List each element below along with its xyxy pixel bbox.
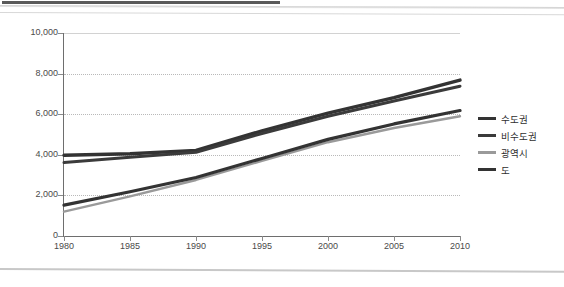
legend-item-label: 광역시 [501,146,528,160]
legend-item-비수도권[interactable]: 비수도권 [478,127,560,144]
legend-item-수도권[interactable]: 수도권 [478,110,560,127]
chart-legend: 수도권비수도권광역시도 [478,110,560,178]
series-line-비수도권 [64,86,460,162]
legend-swatch-icon [478,134,496,137]
scanned-page: 02,0004,0006,0008,00010,000 198019851990… [0,0,564,287]
page-bottom-rule [0,268,564,273]
legend-item-도[interactable]: 도 [478,161,560,178]
legend-item-label: 도 [501,163,510,177]
series-line-수도권 [64,80,460,155]
legend-swatch-icon [478,168,496,171]
legend-item-label: 비수도권 [501,129,537,143]
legend-item-광역시[interactable]: 광역시 [478,144,560,161]
legend-item-label: 수도권 [501,112,528,126]
page-top-rule [0,5,564,9]
legend-swatch-icon [478,117,496,120]
page-top-dark-bar [2,1,280,4]
line-chart: 02,0004,0006,0008,00010,000 198019851990… [0,14,564,264]
legend-swatch-icon [478,151,496,153]
